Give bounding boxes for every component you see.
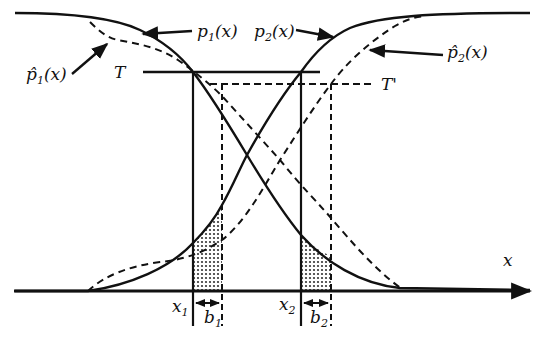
svg-text:b1: b1 bbox=[204, 307, 222, 330]
shaded-region-b2 bbox=[301, 235, 331, 291]
b2-label: b2 bbox=[310, 307, 328, 330]
svg-text:p̂1(x): p̂1(x) bbox=[26, 64, 67, 87]
p2-pointer-arrow bbox=[296, 30, 333, 37]
p2-label: p2(x) bbox=[254, 21, 295, 44]
b1-label: b1 bbox=[204, 307, 222, 330]
svg-text:b2: b2 bbox=[310, 307, 328, 330]
diagram-canvas: x T T' x1 x2 b1 b2 p1(x) p2(x) p̂1(x) p̂… bbox=[0, 0, 543, 337]
x-axis-label: x bbox=[503, 250, 513, 270]
p1-label: p1(x) bbox=[197, 21, 238, 44]
svg-text:x1: x1 bbox=[172, 296, 189, 319]
x2-label: x2 bbox=[279, 294, 296, 317]
shaded-region-b1 bbox=[193, 205, 222, 291]
threshold-T-prime-label: T' bbox=[381, 74, 397, 94]
p1-hat-label: p̂1(x) bbox=[26, 64, 67, 87]
svg-text:p̂2(x): p̂2(x) bbox=[447, 42, 488, 65]
threshold-T-label: T bbox=[114, 62, 127, 82]
p1-pointer-arrow bbox=[143, 31, 192, 34]
svg-text:p1(x): p1(x) bbox=[197, 21, 238, 44]
svg-text:x2: x2 bbox=[279, 294, 296, 317]
p1-hat-pointer-arrow bbox=[72, 44, 107, 74]
x1-label: x1 bbox=[172, 296, 189, 319]
curve-p2-hat bbox=[88, 16, 425, 291]
svg-text:p2(x): p2(x) bbox=[254, 21, 295, 44]
p2-hat-pointer-arrow bbox=[370, 50, 443, 55]
p2-hat-label: p̂2(x) bbox=[447, 42, 488, 65]
